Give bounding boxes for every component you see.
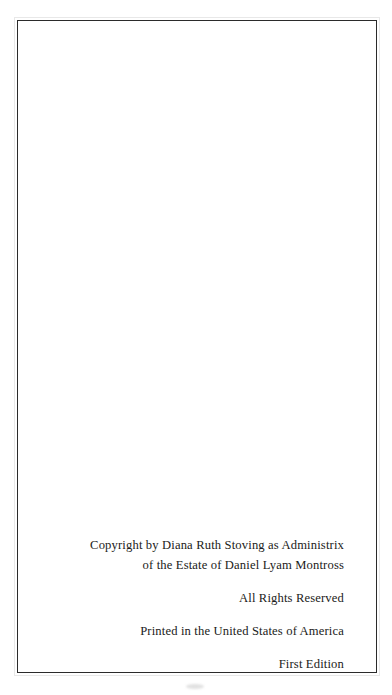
copyright-line-2: of the Estate of Daniel Lyam Montross	[48, 555, 344, 575]
scan-smudge-artifact	[186, 684, 204, 689]
edition-statement: First Edition	[48, 654, 344, 674]
rights-statement: All Rights Reserved	[48, 588, 344, 608]
printing-statement: Printed in the United States of America	[48, 621, 344, 641]
page-sheet: Copyright by Diana Ruth Stoving as Admin…	[17, 20, 377, 673]
printed-in-line: Printed in the United States of America	[48, 621, 344, 641]
all-rights-reserved-line: All Rights Reserved	[48, 588, 344, 608]
copyright-statement: Copyright by Diana Ruth Stoving as Admin…	[48, 535, 344, 575]
colophon-block: Copyright by Diana Ruth Stoving as Admin…	[48, 535, 344, 674]
copyright-line-1: Copyright by Diana Ruth Stoving as Admin…	[48, 535, 344, 555]
edition-line: First Edition	[48, 654, 344, 674]
